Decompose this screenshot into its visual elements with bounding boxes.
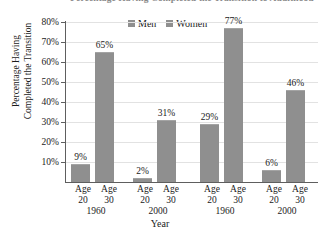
x-axis-age-words: AgeAge	[66, 184, 126, 195]
y-axis-tick-label: 10%	[33, 157, 59, 167]
y-axis-tick	[61, 42, 65, 43]
y-axis-tick	[61, 162, 65, 163]
chart-title-text: Percentage Having Completed the Transiti…	[66, 0, 318, 3]
bar-value-label: 2%	[127, 166, 158, 176]
x-axis-age-number: 20	[73, 195, 93, 206]
y-axis-tick	[61, 102, 65, 103]
x-axis-age-words: AgeAge	[128, 184, 188, 195]
y-axis-tick	[61, 82, 65, 83]
y-axis-tick-label: 50%	[33, 77, 59, 87]
x-axis-age-word: Age	[202, 184, 222, 195]
x-axis-title: Year	[0, 218, 320, 229]
x-axis-age-word: Age	[135, 184, 155, 195]
x-axis-age-number: 30	[99, 195, 119, 206]
y-axis-tick-label: 70%	[33, 37, 59, 47]
x-axis-age-words: AgeAge	[195, 184, 255, 195]
chart-figure: Percentage Having Completed the Transiti…	[0, 0, 320, 237]
bar-value-label: 46%	[280, 78, 311, 88]
bar-value-label: 65%	[89, 40, 120, 50]
x-axis-age-numbers: 2030	[195, 195, 255, 206]
y-axis-tick-label: 80%	[33, 17, 59, 27]
x-axis-age-words: AgeAge	[257, 184, 317, 195]
x-axis-line	[65, 182, 318, 183]
y-axis-tick	[61, 142, 65, 143]
x-axis-age-word: Age	[264, 184, 284, 195]
chart-title-clipped: Percentage Having Completed the Transiti…	[66, 0, 318, 7]
y-axis-tick	[61, 122, 65, 123]
x-axis-age-word: Age	[228, 184, 248, 195]
x-axis-year-label: 2000	[257, 206, 317, 217]
x-axis-group: AgeAge20301960	[195, 184, 255, 217]
bar	[133, 178, 152, 182]
x-axis-year-label: 1960	[66, 206, 126, 217]
x-axis-age-number: 20	[264, 195, 284, 206]
bar	[224, 28, 243, 182]
x-axis-group: AgeAge20301960	[66, 184, 126, 217]
y-axis-tick	[61, 62, 65, 63]
y-axis-tick-label: 40%	[33, 97, 59, 107]
y-axis-title-line1: Percentage Having	[11, 0, 23, 146]
bar	[286, 90, 305, 182]
x-axis-year-label: 1960	[195, 206, 255, 217]
x-axis-group: AgeAge20302000	[128, 184, 188, 217]
x-axis-age-word: Age	[99, 184, 119, 195]
bar-value-label: 31%	[151, 108, 182, 118]
y-axis-tick-label: 60%	[33, 57, 59, 67]
bar-value-label: 77%	[218, 16, 249, 26]
bar	[157, 120, 176, 182]
x-axis-age-number: 20	[135, 195, 155, 206]
x-axis-age-number: 30	[228, 195, 248, 206]
x-axis-year-label: 2000	[128, 206, 188, 217]
x-axis-age-word: Age	[290, 184, 310, 195]
x-axis-age-number: 30	[161, 195, 181, 206]
x-axis-age-numbers: 2030	[128, 195, 188, 206]
bar-value-label: 6%	[256, 158, 287, 168]
x-axis-age-numbers: 2030	[257, 195, 317, 206]
bar	[262, 170, 281, 182]
x-axis-age-word: Age	[161, 184, 181, 195]
bar	[71, 164, 90, 182]
x-axis-age-numbers: 2030	[66, 195, 126, 206]
bar	[200, 124, 219, 182]
y-axis-tick-label: 20%	[33, 137, 59, 147]
bar	[95, 52, 114, 182]
gridline	[66, 22, 318, 23]
y-axis-tick	[61, 22, 65, 23]
y-axis-tick-label: 30%	[33, 117, 59, 127]
bar-value-label: 29%	[194, 112, 225, 122]
x-axis-age-word: Age	[73, 184, 93, 195]
x-axis-group: AgeAge20302000	[257, 184, 317, 217]
bar-value-label: 9%	[65, 152, 96, 162]
x-axis-age-number: 30	[290, 195, 310, 206]
x-axis-age-number: 20	[202, 195, 222, 206]
